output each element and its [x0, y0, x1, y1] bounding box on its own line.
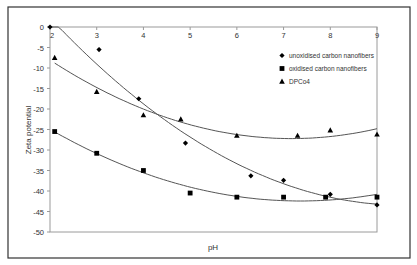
- x-tick-label: 5: [188, 31, 192, 40]
- x-tick-label: 7: [281, 31, 285, 40]
- y-tick-label: -20: [33, 105, 44, 114]
- y-tick-label: -25: [33, 126, 44, 135]
- x-tick-label: 4: [141, 31, 145, 40]
- y-tick-label: -45: [33, 208, 44, 217]
- x-tick-label: 6: [235, 31, 239, 40]
- x-tick-label: 8: [328, 31, 332, 40]
- zeta-potential-chart: 0-5-10-15-20-25-30-35-40-45-50 23456789 …: [0, 0, 417, 265]
- y-tick-label: -50: [33, 228, 44, 237]
- x-tick-label: 9: [375, 31, 379, 40]
- legend-label: DPCo4: [289, 78, 310, 85]
- legend-label: oxidised carbon nanofibers: [289, 65, 367, 72]
- data-point-square: [375, 195, 380, 200]
- legend-marker-square: [280, 66, 285, 71]
- y-tick-label: -30: [33, 146, 44, 155]
- data-point-square: [141, 168, 146, 173]
- x-axis-label: pH: [208, 243, 218, 252]
- chart-container: 0-5-10-15-20-25-30-35-40-45-50 23456789 …: [0, 0, 417, 265]
- x-tick-label: 2: [50, 31, 54, 40]
- x-tick-label: 3: [95, 31, 99, 40]
- legend-label: unoxidised carbon nanofibers: [289, 52, 375, 59]
- data-point-square: [323, 195, 328, 200]
- data-point-square: [188, 191, 193, 196]
- y-tick-label: -15: [33, 85, 44, 94]
- y-tick-label: 0: [40, 23, 44, 32]
- y-axis-label: Zeta potential: [24, 106, 33, 155]
- y-tick-label: -5: [37, 44, 44, 53]
- y-tick-label: -10: [33, 64, 44, 73]
- y-tick-label: -35: [33, 167, 44, 176]
- data-point-square: [52, 129, 57, 134]
- data-point-square: [94, 151, 99, 156]
- y-tick-label: -40: [33, 187, 44, 196]
- chart-frame: [8, 7, 410, 258]
- data-point-square: [281, 195, 286, 200]
- data-point-square: [234, 195, 239, 200]
